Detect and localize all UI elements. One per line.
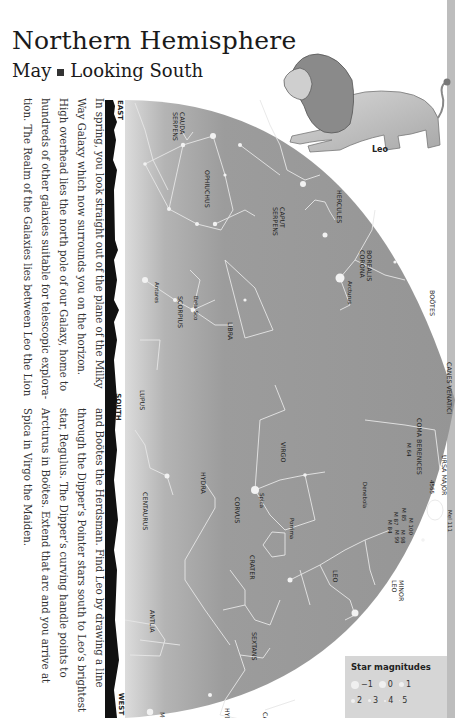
- label-scorpius: SCORPIUS: [177, 296, 184, 328]
- label-canes-venatici: CANES VENATICI: [446, 362, 453, 414]
- label-crater: CRATER: [249, 555, 256, 580]
- label-monoceros: MONOCEROS: [159, 712, 166, 718]
- label-beta-sco: Beta Sco: [193, 296, 199, 321]
- page-title: Northern Hemisphere: [12, 26, 296, 55]
- label-corvus: CORVUS: [234, 497, 241, 523]
- label-leo: LEO: [332, 570, 339, 582]
- text-line: Arcturus in Boötes. Extend that arc and …: [36, 408, 54, 708]
- star-spica: [251, 486, 259, 494]
- label-sextans: SEXTANS: [251, 632, 258, 661]
- star-dot-icon: [379, 681, 386, 688]
- star-magnitudes-legend: Star magnitudes −1 0 1 2 3 4 5: [345, 656, 447, 718]
- sky-dome: [125, 100, 455, 718]
- label-cancer: CANCER: [262, 712, 269, 718]
- label-ngc4565: 4565: [429, 480, 435, 494]
- star-chart: SERPENSCAUDA OPHIUCHUS SERPENSCAPUT HERC…: [105, 100, 455, 718]
- star-dot-icon: [399, 682, 404, 687]
- label-hercules: HERCULES: [336, 190, 343, 223]
- horizon-band: [105, 100, 113, 718]
- star-dot-icon: [399, 700, 400, 701]
- legend-item: 3: [368, 696, 378, 705]
- star-procyon: [147, 709, 153, 715]
- subtitle-month: May: [12, 60, 51, 81]
- label-hydra-east: HYDRA: [200, 472, 207, 495]
- label-corona-borealis: CORONABOREALIS: [359, 250, 373, 281]
- label-porrima: Porrima: [289, 518, 295, 539]
- label-lupus: LUPUS: [139, 390, 146, 410]
- legend-item: −1: [351, 680, 373, 689]
- label-virgo: VIRGO: [280, 442, 287, 462]
- label-antares: Antares: [154, 282, 160, 303]
- star-denebola: [288, 578, 293, 583]
- star-dot-icon: [384, 700, 386, 702]
- label-antlia: ANTLIA: [149, 610, 156, 633]
- text-line: High overhead lies the north pole of our…: [54, 98, 72, 398]
- bullet-square-icon: [57, 69, 64, 76]
- text-line: Spica in Virgo the Maiden.: [18, 408, 36, 708]
- star-dot-icon: [351, 699, 355, 703]
- star-antares: [142, 277, 148, 283]
- legend-row-2: 2 3 4 5: [351, 696, 407, 705]
- legend-item: 4: [384, 696, 393, 705]
- label-m99: M 99: [394, 530, 400, 544]
- label-mel111: Mel 111: [447, 510, 453, 532]
- label-bootes: BOÖTES: [429, 290, 436, 316]
- body-text-column-2: and Boötes the Herdsman. Find Leo by dra…: [18, 408, 108, 708]
- label-m85: M 85: [401, 508, 407, 522]
- label-coma-berenices: COMA BERENICES: [416, 418, 423, 475]
- label-spica: Spica: [258, 493, 265, 508]
- legend-item: 1: [399, 680, 411, 689]
- star-dot-icon: [351, 681, 359, 689]
- text-line: through the Dipper’s Pointer stars south…: [72, 408, 90, 708]
- legend-item: 2: [351, 696, 362, 705]
- mel111-cluster-outline: [427, 500, 443, 520]
- legend-item: 0: [379, 680, 393, 689]
- label-ursa-major: URSA MAJOR: [440, 455, 448, 496]
- text-line: hundreds of other galaxies suitable for …: [36, 98, 54, 398]
- label-ophiuchus: OPHIUCHUS: [204, 170, 211, 208]
- page-subtitle: MayLooking South: [12, 60, 203, 81]
- label-denebola: Denebola: [362, 482, 368, 508]
- label-centaurus: CENTAURUS: [142, 492, 149, 530]
- label-libra: LIBRA: [227, 322, 234, 341]
- legend-item: 5: [399, 696, 407, 705]
- legend-title: Star magnitudes: [351, 662, 431, 672]
- star-dot-icon: [368, 699, 371, 702]
- label-hydra-west: HYDRA: [224, 708, 231, 718]
- label-m64: M 64: [406, 443, 412, 457]
- label-leo-minor: LEOMINOR: [391, 580, 405, 602]
- label-m84: M 84: [387, 520, 393, 534]
- star-arcturus: [336, 274, 345, 283]
- label-m100: M 100: [408, 518, 414, 535]
- text-line: Way Galaxy which now surrounds you on th…: [72, 98, 90, 398]
- star-regulus: [352, 610, 359, 617]
- label-arcturus: Arcturus: [347, 281, 353, 304]
- text-line: tion. The Realm of the Galaxies lies bet…: [18, 98, 36, 398]
- legend-row-1: −1 0 1: [351, 680, 411, 689]
- text-line: star, Regulus. The Dipper’s curving hand…: [54, 408, 72, 708]
- subtitle-direction: Looking South: [70, 60, 203, 81]
- body-text-column-1: In spring, you look straight out of the …: [18, 98, 108, 398]
- body-text: In spring, you look straight out of the …: [8, 98, 108, 708]
